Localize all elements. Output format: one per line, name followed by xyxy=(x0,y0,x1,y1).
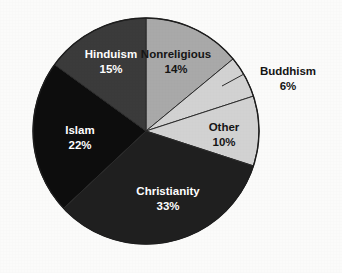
pie-chart-figure: Nonreligious 14% Buddhism 6% Other 10% C… xyxy=(0,0,342,273)
buddhism-label-name: Buddhism xyxy=(260,65,316,77)
hinduism-label-name: Hinduism xyxy=(85,48,137,60)
pie-chart-canvas: Nonreligious 14% Buddhism 6% Other 10% C… xyxy=(0,0,342,273)
islam-label-name: Islam xyxy=(65,124,94,136)
nonreligious-label-name: Nonreligious xyxy=(141,48,211,60)
slice-label-buddhism: Buddhism 6% xyxy=(260,65,316,92)
other-label-value: 10% xyxy=(212,136,235,148)
hinduism-label-value: 15% xyxy=(99,63,122,75)
other-label-name: Other xyxy=(209,121,240,133)
nonreligious-label-value: 14% xyxy=(164,63,187,75)
christianity-label-value: 33% xyxy=(156,200,179,212)
islam-label-value: 22% xyxy=(68,139,91,151)
buddhism-label-value: 6% xyxy=(280,80,297,92)
christianity-label-name: Christianity xyxy=(136,185,200,197)
